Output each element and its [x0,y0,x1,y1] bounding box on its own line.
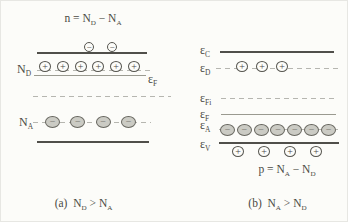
panel-a-intrinsic-level-dashed-line [33,96,171,97]
panel-b-intrinsic-fermi-dashed-line [221,98,338,99]
panel-b-ionized-acceptor-row: −−−−−−− [220,124,336,136]
donor-plus-circle-icon: + [75,61,87,72]
donor-plus-circle-icon: + [236,61,248,72]
hole-plus-circle-icon: + [232,146,244,157]
panel-b-ionized-donor-row: +++ [236,61,288,72]
panel-a-donor-label: ND [17,63,31,75]
energy-band-diagram-figure: n = ND − NA −− ND ++++++ εF NA −−−− (a) … [0,0,348,222]
donor-plus-circle-icon: + [39,61,51,72]
acceptor-minus-circle-icon: − [121,116,136,128]
electron-minus-circle-icon: − [107,42,117,52]
panel-b-caption: (b) NA > ND [235,198,320,210]
donor-plus-circle-icon: + [57,61,69,72]
donor-plus-circle-icon: + [256,61,268,72]
panel-a-ionized-donor-row: ++++++ [39,61,140,72]
panel-a-ionized-acceptor-row: −−−− [45,116,136,128]
panel-b-conduction-band-line [220,51,334,53]
panel-a-caption: (a) ND > NA [41,198,126,210]
panel-b-hole-row: ++++ [232,146,322,157]
hole-plus-circle-icon: + [284,146,296,157]
donor-plus-circle-icon: + [110,61,122,72]
panel-a-valence-band-line [37,141,149,143]
panel-a-acceptor-label: NA [19,116,33,128]
acceptor-minus-circle-icon: − [304,124,319,136]
panel-b-intrinsic-fermi-label: εFi [200,92,211,104]
acceptor-minus-circle-icon: − [237,124,252,136]
panel-b-acceptor-level-label: εA [200,119,210,131]
panel-b-valence-label: εV [200,138,210,150]
acceptor-minus-circle-icon: − [96,116,111,128]
acceptor-minus-circle-icon: − [254,124,269,136]
panel-a-electron-row: −− [84,42,117,52]
panel-a-fermi-level-line [34,75,146,76]
acceptor-minus-circle-icon: − [70,116,85,128]
panel-b-equation: p = NA − ND [247,164,327,176]
panel-b-valence-band-line [219,142,339,144]
hole-plus-circle-icon: + [258,146,270,157]
electron-minus-circle-icon: − [84,42,94,52]
donor-plus-circle-icon: + [276,61,288,72]
acceptor-minus-circle-icon: − [270,124,285,136]
donor-plus-circle-icon: + [92,61,104,72]
panel-a-conduction-band-line [37,52,147,54]
acceptor-minus-circle-icon: − [287,124,302,136]
panel-a-title: n = ND − NA [54,13,132,25]
donor-plus-circle-icon: + [128,61,140,72]
panel-b-fermi-level-line [221,114,336,115]
panel-b-donor-level-label: εD [200,62,210,74]
panel-a-fermi-label: εF [148,73,157,85]
acceptor-minus-circle-icon: − [45,116,60,128]
panel-b-conduction-label: εC [200,44,210,56]
acceptor-minus-circle-icon: − [220,124,235,136]
hole-plus-circle-icon: + [310,146,322,157]
acceptor-minus-circle-icon: − [321,124,336,136]
